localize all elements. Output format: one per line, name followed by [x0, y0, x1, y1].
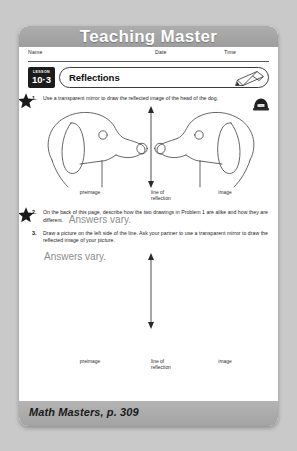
- worksheet-sheet: Name Date Time LESSON 10·3 Reflections: [19, 48, 278, 401]
- workspace-line-of-reflection-svg: [28, 251, 269, 331]
- problem-3-text: Draw a picture on the left side of the l…: [43, 230, 269, 244]
- problem-2-text: On the back of this page, describe how t…: [43, 209, 269, 224]
- arrow-head-bottom: [148, 181, 154, 188]
- reflection-diagram-dogs: [28, 104, 269, 190]
- problem-2-answer: Answers vary.: [69, 216, 131, 223]
- arrow-head-top: [148, 106, 154, 113]
- label-line-of-reflection-bottom: line of reflection: [132, 359, 170, 365]
- lesson-number-label: 10·3: [28, 74, 55, 85]
- label-line-of-reflection-top: line of reflection: [132, 190, 170, 196]
- problem-1-number: 1.: [32, 95, 37, 101]
- label-image-top: image: [206, 190, 244, 195]
- date-field-label: Date: [155, 49, 167, 55]
- name-date-time-row: Name Date Time: [28, 48, 269, 62]
- time-field-label: Time: [224, 49, 236, 55]
- page-title: Teaching Master: [19, 27, 278, 46]
- problem-2-number: 2.: [32, 209, 37, 215]
- dog-preimage: [48, 113, 147, 188]
- lesson-title-bar: LESSON 10·3 Reflections: [28, 66, 269, 90]
- problem-1-text: Use a transparent mirror to draw the ref…: [43, 95, 269, 102]
- dog-image: [155, 113, 254, 188]
- footer-source-label: Math Masters, p. 309: [29, 406, 139, 418]
- label-preimage-top: preimage: [68, 190, 112, 195]
- name-field-label: Name: [28, 49, 42, 55]
- diagram-labels-bottom: preimage line of reflection image: [28, 359, 269, 373]
- worksheet-card: Teaching Master Name Date Time LESSON 10…: [19, 26, 278, 426]
- reflection-workspace[interactable]: Answers vary.: [28, 251, 269, 359]
- problem-1: 1. Use a transparent mirror to draw the …: [28, 95, 269, 102]
- diagram-labels-top: preimage line of reflection image: [28, 190, 269, 204]
- problem-3-number: 3.: [32, 230, 37, 236]
- problem-2: 2. On the back of this page, describe ho…: [28, 209, 269, 224]
- dogs-diagram-svg: [28, 104, 269, 190]
- page-banner: Teaching Master: [19, 26, 278, 47]
- lesson-title-text: Reflections: [69, 72, 120, 83]
- lesson-title-pill: Reflections: [59, 67, 269, 88]
- problem-3: 3. Draw a picture on the left side of th…: [28, 230, 269, 244]
- lesson-number-badge: LESSON 10·3: [28, 67, 55, 88]
- label-reflection-bottom: reflection: [151, 365, 171, 371]
- page-footer: Math Masters, p. 309: [19, 401, 278, 426]
- pencil-icon: [232, 70, 266, 88]
- label-reflection-top: reflection: [151, 196, 171, 202]
- label-preimage-bottom: preimage: [68, 359, 112, 364]
- label-image-bottom: image: [206, 359, 244, 364]
